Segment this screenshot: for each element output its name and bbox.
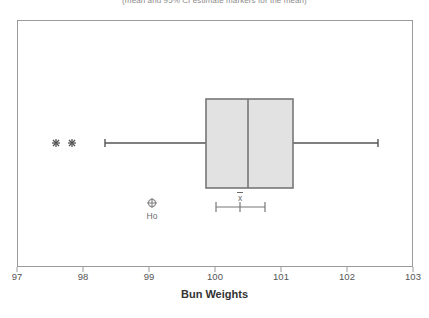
x-tick-label: 97	[0, 271, 37, 282]
sample-mean-marker-label: x	[225, 192, 255, 203]
x-tick-label: 101	[261, 271, 301, 282]
x-tick-label: 103	[393, 271, 429, 282]
hypothesized-mean-label: Ho	[132, 211, 172, 221]
x-tick-label: 98	[63, 271, 103, 282]
boxplot-figure: (mean and 95% CI estimate markers for th…	[0, 0, 429, 318]
chart-subtitle: (mean and 95% CI estimate markers for th…	[0, 0, 429, 5]
xbar-letter: x	[238, 193, 242, 203]
x-tick-label: 100	[195, 271, 235, 282]
x-tick-label: 102	[327, 271, 367, 282]
plot-frame	[17, 20, 413, 267]
x-tick-label: 99	[129, 271, 169, 282]
x-axis-title: Bun Weights	[0, 288, 429, 300]
